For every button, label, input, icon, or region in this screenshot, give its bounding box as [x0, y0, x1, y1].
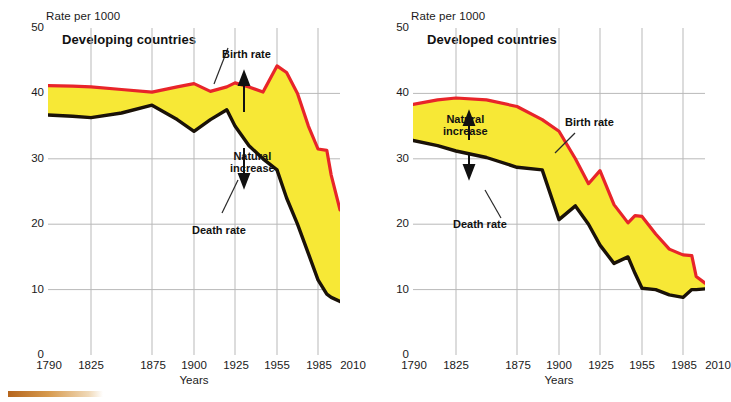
- y-tick-label-30: 30: [379, 152, 409, 164]
- x-tick-label-1925: 1925: [223, 359, 249, 371]
- death-rate-label: Death rate: [453, 218, 507, 230]
- plot-svg: [48, 28, 340, 355]
- x-tick-label-1900: 1900: [546, 359, 572, 371]
- y-tick-label-40: 40: [14, 86, 44, 98]
- x-tick-label-1875: 1875: [140, 359, 166, 371]
- death-rate-label: Death rate: [192, 224, 246, 236]
- x-tick-label-1790: 1790: [36, 359, 62, 371]
- x-tick-label-1955: 1955: [264, 359, 290, 371]
- x-tick-label-1825: 1825: [78, 359, 104, 371]
- chart-panel-developed: Rate per 1000 Developed countries 50 40 …: [365, 0, 731, 390]
- x-tick-label-1925: 1925: [588, 359, 614, 371]
- x-tick-label-1825: 1825: [443, 359, 469, 371]
- plot-area: [48, 28, 340, 355]
- chart-panel-developing: Rate per 1000 Developing countries 50 40…: [0, 0, 366, 390]
- y-tick-label-20: 20: [379, 217, 409, 229]
- natural-increase-label: Naturalincrease: [443, 113, 488, 138]
- plot-area: [413, 28, 705, 355]
- y-tick-label-30: 30: [14, 152, 44, 164]
- birth-rate-label: Birth rate: [565, 116, 614, 128]
- y-tick-label-50: 50: [379, 21, 409, 33]
- demographic-transition-figure: Rate per 1000 Developing countries 50 40…: [0, 0, 731, 402]
- x-tick-label-2010: 2010: [705, 359, 731, 371]
- x-tick-label-2010: 2010: [340, 359, 366, 371]
- plot-svg: [413, 28, 705, 355]
- x-tick-label-1900: 1900: [181, 359, 207, 371]
- x-tick-label-1985: 1985: [671, 359, 697, 371]
- birth-rate-label: Birth rate: [222, 48, 271, 60]
- y-tick-label-50: 50: [14, 21, 44, 33]
- x-tick-label-1985: 1985: [306, 359, 332, 371]
- x-tick-label-1955: 1955: [629, 359, 655, 371]
- x-axis-title: Years: [180, 374, 209, 386]
- y-tick-label-40: 40: [379, 86, 409, 98]
- natural-increase-label: Naturalincrease: [230, 150, 275, 175]
- y-axis-title: Rate per 1000: [46, 10, 120, 22]
- y-axis-title: Rate per 1000: [411, 10, 485, 22]
- decorative-bottom-bar: [8, 391, 103, 397]
- y-tick-label-10: 10: [379, 283, 409, 295]
- x-tick-label-1790: 1790: [401, 359, 427, 371]
- y-tick-label-10: 10: [14, 283, 44, 295]
- y-tick-label-20: 20: [14, 217, 44, 229]
- annotation-leader-lines: [214, 48, 238, 213]
- x-axis-title: Years: [545, 374, 574, 386]
- x-tick-label-1875: 1875: [505, 359, 531, 371]
